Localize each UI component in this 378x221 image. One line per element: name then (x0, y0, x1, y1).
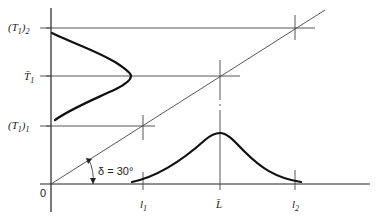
label-Lbar: L̄ (215, 198, 222, 210)
label-l2: l2 (292, 198, 299, 213)
label-l1: l1 (140, 198, 147, 213)
length-distribution-curve (132, 133, 301, 182)
label-T1-2: (T1)2 (8, 21, 29, 36)
slope-line (51, 10, 325, 184)
label-T1-1: (T1)1 (8, 119, 29, 134)
angle-label: δ = 30° (98, 165, 133, 177)
tolerance-diagram: δ = 30° 0 (T1)2 T̄1 (T1)1 l1 L̄ l2 (0, 0, 378, 221)
T1-distribution-curve (52, 33, 131, 120)
angle-arrow-bottom-icon (90, 178, 96, 184)
origin-label: 0 (40, 187, 46, 199)
label-T1bar: T̄1 (24, 70, 34, 85)
